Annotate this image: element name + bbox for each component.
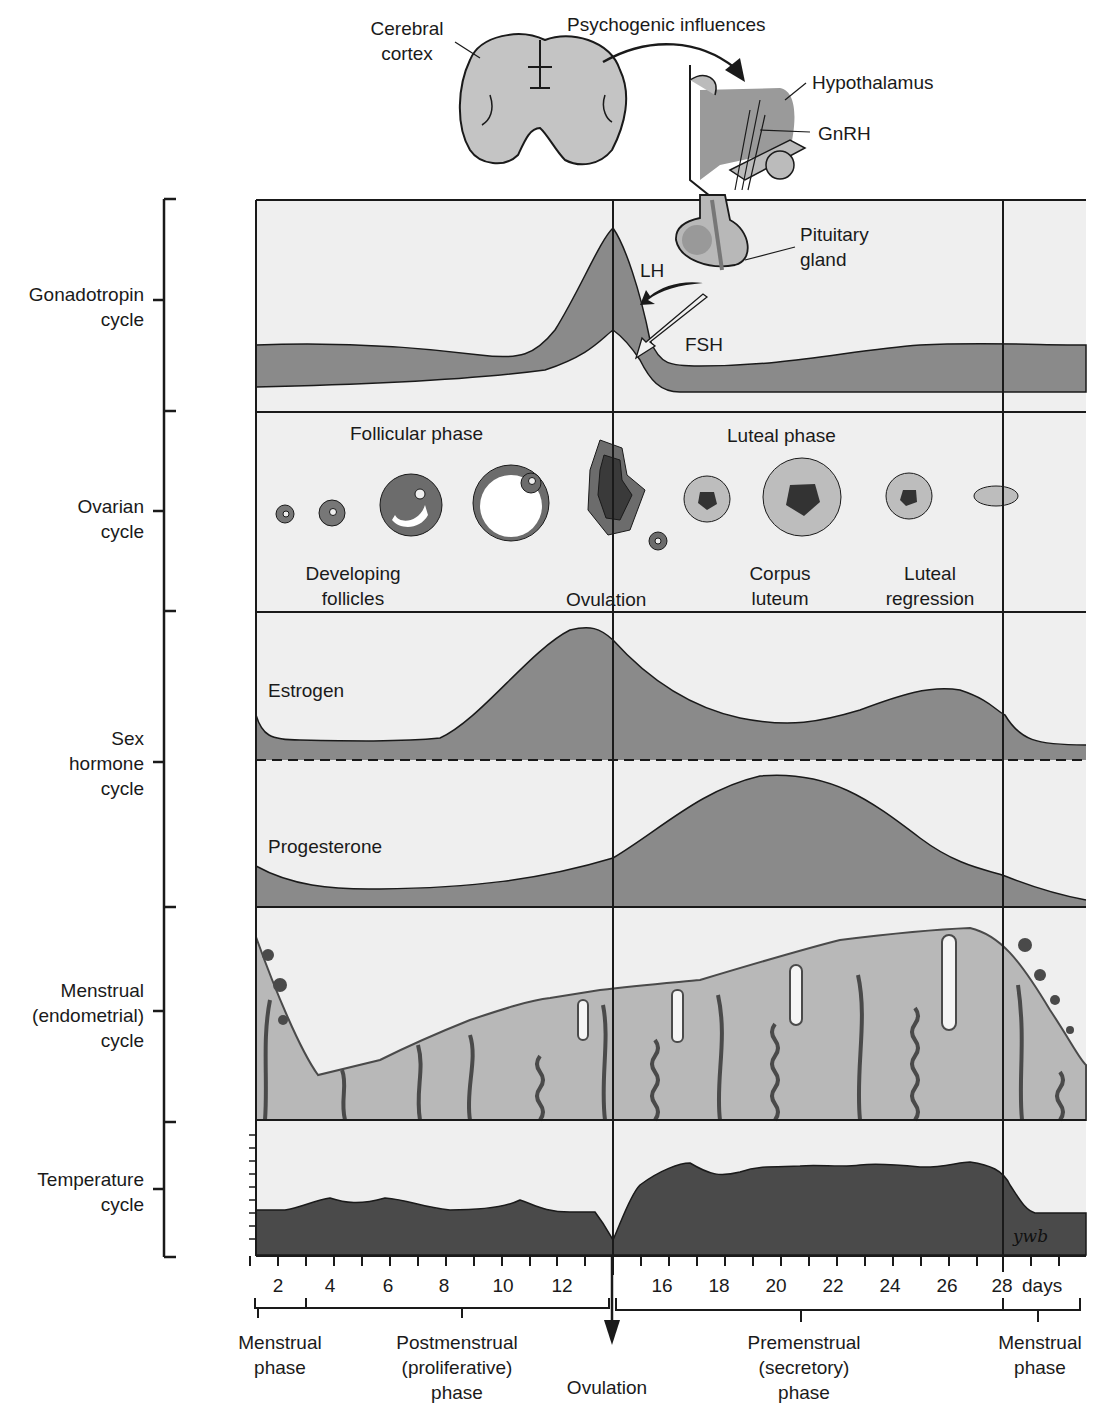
label-line: Ovarian	[77, 494, 144, 519]
hypothalamus-label: Hypothalamus	[812, 70, 933, 95]
row-label-gonadotropin: Gonadotropin cycle	[29, 282, 144, 332]
cerebral-cortex-label: Cerebral cortex	[371, 16, 444, 66]
label-line: cycle	[29, 307, 144, 332]
x-tick-label: 18	[708, 1273, 729, 1298]
lh-label: LH	[640, 258, 664, 283]
x-tick-label: 20	[765, 1273, 786, 1298]
psychogenic-label: Psychogenic influences	[567, 12, 766, 37]
label-line: phase	[748, 1380, 861, 1405]
row-label-sex-hormone: Sex hormone cycle	[69, 726, 144, 801]
luteal-regression-label: Luteal regression	[886, 561, 975, 611]
x-tick-label: 24	[879, 1273, 900, 1298]
row-label-temperature: Temperature cycle	[37, 1167, 144, 1217]
label-line: cycle	[37, 1192, 144, 1217]
label-line: cycle	[77, 519, 144, 544]
label-line: Pituitary	[800, 222, 869, 247]
label-line: (endometrial)	[32, 1003, 144, 1028]
artist-signature: ywb	[1013, 1224, 1048, 1249]
label-line: luteum	[749, 586, 810, 611]
label-line: cortex	[371, 41, 444, 66]
label-line: regression	[886, 586, 975, 611]
x-tick-label: 22	[822, 1273, 843, 1298]
label-line: Sex	[69, 726, 144, 751]
x-tick-label: 26	[936, 1273, 957, 1298]
label-line: (secretory)	[748, 1355, 861, 1380]
postmenstrual-phase-label: Postmenstrual (proliferative) phase	[396, 1330, 517, 1405]
label-line: phase	[396, 1380, 517, 1405]
label-line: Corpus	[749, 561, 810, 586]
label-line: Temperature	[37, 1167, 144, 1192]
row-label-ovarian: Ovarian cycle	[77, 494, 144, 544]
brain-icon	[460, 34, 626, 164]
label-line: Premenstrual	[748, 1330, 861, 1355]
label-line: Menstrual	[998, 1330, 1081, 1355]
hypothalamus-leader	[785, 83, 806, 100]
x-tick-label: 4	[325, 1273, 336, 1298]
ovulation-ovarian-label: Ovulation	[566, 587, 646, 612]
label-line: hormone	[69, 751, 144, 776]
x-tick-label: 10	[492, 1273, 513, 1298]
luteal-phase-label: Luteal phase	[727, 423, 836, 448]
label-line: phase	[238, 1355, 321, 1380]
x-tick-label: 6	[383, 1273, 394, 1298]
label-line: Developing	[305, 561, 400, 586]
label-line: cycle	[69, 776, 144, 801]
label-line: Menstrual	[238, 1330, 321, 1355]
menstrual-cycle-diagram	[0, 0, 1096, 1415]
x-tick-label: 16	[651, 1273, 672, 1298]
x-tick-label: 2	[273, 1273, 284, 1298]
hypothalamus-icon	[690, 65, 805, 200]
x-tick-label: 12	[551, 1273, 572, 1298]
label-line: Postmenstrual	[396, 1330, 517, 1355]
progesterone-label: Progesterone	[268, 834, 382, 859]
fsh-label: FSH	[685, 332, 723, 357]
premenstrual-phase-label: Premenstrual (secretory) phase	[748, 1330, 861, 1405]
label-line: phase	[998, 1355, 1081, 1380]
gnrh-label: GnRH	[818, 121, 871, 146]
label-line: Gonadotropin	[29, 282, 144, 307]
label-line: Menstrual	[32, 978, 144, 1003]
left-bracket	[153, 199, 176, 1257]
pituitary-label: Pituitary gland	[800, 222, 869, 272]
x-tick-label: 8	[439, 1273, 450, 1298]
label-line: (proliferative)	[396, 1355, 517, 1380]
x-axis-unit: days	[1022, 1273, 1062, 1298]
label-line: Luteal	[886, 561, 975, 586]
row-label-menstrual: Menstrual (endometrial) cycle	[32, 978, 144, 1053]
label-line: follicles	[305, 586, 400, 611]
menstrual-phase-label-1: Menstrual phase	[238, 1330, 321, 1380]
corpus-luteum-label: Corpus luteum	[749, 561, 810, 611]
ovulation-axis-label: Ovulation	[567, 1375, 647, 1400]
x-tick-label: 28	[991, 1273, 1012, 1298]
label-line: Cerebral	[371, 16, 444, 41]
day-ticks	[250, 1256, 1059, 1266]
temperature-ticks	[249, 1135, 256, 1239]
label-line: cycle	[32, 1028, 144, 1053]
label-line: gland	[800, 247, 869, 272]
estrogen-label: Estrogen	[268, 678, 344, 703]
menstrual-phase-label-2: Menstrual phase	[998, 1330, 1081, 1380]
follicular-phase-label: Follicular phase	[350, 421, 483, 446]
ovulation-arrow-icon	[604, 1320, 620, 1345]
developing-follicles-label: Developing follicles	[305, 561, 400, 611]
psychogenic-arrow	[603, 44, 735, 68]
